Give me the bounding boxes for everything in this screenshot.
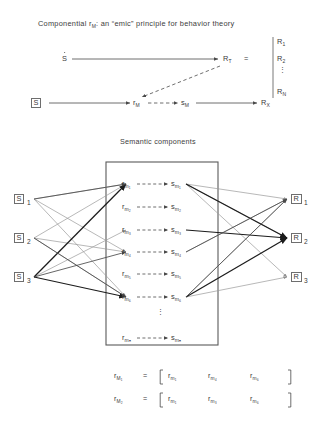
figure-title-rest: : an “emic” principle for behavior theor… (96, 19, 234, 28)
component-s-2-sub: m₂ (175, 206, 181, 212)
diagram-vector-layer (0, 0, 327, 427)
node-r-m: rM (133, 99, 140, 106)
response-r3: R (291, 272, 302, 282)
vector-item-r1: R1 (277, 38, 285, 45)
node-r-total: RT (223, 55, 232, 62)
stimulus-s1-sub: 1 (27, 200, 31, 207)
component-s-6: sm₆ (171, 293, 181, 300)
equation-1-term-2-sub: m₄ (211, 376, 217, 381)
equation-1-term-3-sub: m₆ (253, 376, 259, 381)
equation-1-term-1-sub: m₁ (171, 376, 177, 381)
component-s-2: sm₂ (171, 203, 181, 210)
component-r-1-sub: m₁ (125, 183, 131, 189)
response-r1-sub: 1 (304, 200, 308, 207)
stimulus-s1-base: S (17, 194, 22, 203)
equation-1-lhs: rM₁ (114, 372, 123, 379)
component-s-3: sm₃ (171, 226, 181, 233)
component-r-6: rm₆ (122, 293, 131, 300)
figure-title-lead: Componential (38, 19, 89, 28)
component-s-1: sm₁ (171, 180, 181, 187)
node-r-x-sub: X (266, 102, 269, 108)
response-r2-sub: 2 (304, 239, 308, 246)
component-s-6-sub: m₆ (175, 296, 181, 302)
vector-item-r2: R2 (277, 55, 285, 62)
equation-1-term-3: rm₆ (250, 372, 259, 379)
figure-canvas: Componential rM: an “emic” principle for… (0, 0, 327, 427)
semantic-components-label: Semantic components (120, 138, 196, 145)
equation-2-equals: = (143, 395, 147, 402)
equation-1-equals: = (143, 372, 147, 379)
stimulus-s3-sub: 3 (27, 278, 31, 285)
vector-item-rn: RN (277, 88, 286, 95)
component-s-4-sub: m₄ (175, 251, 181, 257)
stimulus-s2-sub: 2 (27, 239, 31, 246)
equation-2-lhs-sub: M₂ (117, 399, 123, 404)
node-s-m: sM (181, 99, 189, 106)
equation-2-lhs: rM₂ (114, 395, 123, 402)
stimulus-s3: S (14, 272, 24, 282)
top-diagram-edges (49, 59, 257, 103)
component-r-5: rm₅ (122, 270, 131, 277)
vector-item-rn-sub: N (282, 91, 286, 97)
component-r-3: rm₃ (122, 226, 131, 233)
equation-1-term-2: rm₄ (208, 372, 217, 379)
component-r-n-sub: mₙ (125, 337, 131, 343)
equation-brackets (160, 370, 291, 407)
response-r1-base: R (294, 194, 299, 203)
node-s-dot-base: S (62, 55, 67, 62)
figure-title: Componential rM: an “emic” principle for… (38, 20, 235, 27)
stimulus-s2-base: S (17, 233, 22, 242)
response-r2: R (291, 233, 302, 243)
component-r-4-sub: m₄ (125, 251, 131, 257)
top-equals-sign: = (244, 55, 248, 62)
equation-2-term-3: rm₆ (250, 395, 259, 402)
component-s-n-sub: mₙ (175, 337, 181, 343)
node-s-boxed-base: S (34, 98, 39, 107)
component-s-4: sm₄ (171, 248, 181, 255)
component-r-1: rm₁ (122, 180, 131, 187)
node-s-m-sub: M (185, 102, 189, 108)
node-r-total-sub: T (228, 58, 231, 64)
component-r-5-sub: m₅ (125, 273, 131, 279)
component-s-5: sm₅ (171, 270, 181, 277)
component-s-3-sub: m₃ (175, 229, 181, 235)
component-r-2-sub: m₂ (125, 206, 131, 212)
stimulus-s2: S (14, 233, 24, 243)
vector-item-r2-sub: 2 (282, 58, 285, 64)
node-r-m-sub: M (136, 102, 140, 108)
component-r-n: rmₙ (122, 334, 131, 341)
component-r-2: rm₂ (122, 203, 131, 210)
stimulus-s1: S (14, 194, 24, 204)
stimulus-to-component-links-bold (34, 184, 126, 297)
vector-item-r1-sub: 1 (282, 41, 285, 47)
component-s-n: smₙ (171, 334, 181, 341)
response-r1: R (291, 194, 302, 204)
component-r-4: rm₄ (122, 248, 131, 255)
response-r2-base: R (294, 233, 299, 242)
equation-1-lhs-sub: M₁ (117, 376, 123, 381)
equation-2-term-1: rm₁ (168, 395, 177, 402)
response-r3-base: R (294, 272, 299, 281)
node-r-x: RX (261, 99, 270, 106)
response-r3-sub: 3 (304, 278, 308, 285)
component-s-1-sub: m₁ (175, 183, 181, 189)
component-ellipsis: ⋮ (156, 310, 164, 314)
node-s-boxed: S (31, 98, 41, 108)
component-s-5-sub: m₅ (175, 273, 181, 279)
equation-2-term-2: rm₃ (208, 395, 217, 402)
equation-1-term-1: rm₁ (168, 372, 177, 379)
node-s-dot: S (62, 55, 67, 62)
component-r-3-sub: m₃ (125, 229, 131, 235)
stimulus-s3-base: S (17, 272, 22, 281)
vector-ellipsis: ⋮ (278, 68, 286, 72)
equation-2-term-3-sub: m₆ (253, 399, 259, 404)
component-r-6-sub: m₆ (125, 296, 131, 302)
component-to-response-links-light (186, 184, 287, 297)
equation-2-term-1-sub: m₁ (171, 399, 177, 404)
equation-2-term-2-sub: m₃ (211, 399, 217, 404)
